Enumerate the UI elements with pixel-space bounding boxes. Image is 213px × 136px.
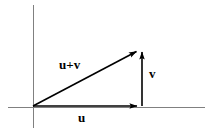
vector-u-plus-v-arrow [33,52,137,107]
vector-diagram-canvas [0,0,213,136]
vector-label-u: u [78,111,85,124]
vector-addition-figure: u+v u v [0,0,213,136]
vector-label-v: v [149,67,156,80]
vector-label-u-plus-v: u+v [59,58,80,71]
